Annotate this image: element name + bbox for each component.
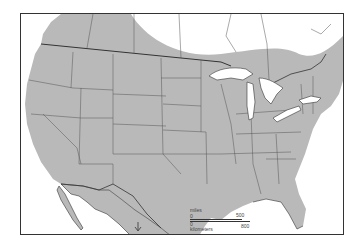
range-map <box>21 14 344 235</box>
map-frame <box>20 13 344 235</box>
scale-miles-bar <box>190 219 242 220</box>
scale-km-end: 800 <box>241 223 249 229</box>
scale-miles-end: 500 <box>236 212 244 218</box>
scale-bar: miles 0 500 0 800 kilometers <box>190 207 250 233</box>
scale-km-label: kilometers <box>190 226 213 232</box>
scale-km-bar <box>190 221 250 222</box>
